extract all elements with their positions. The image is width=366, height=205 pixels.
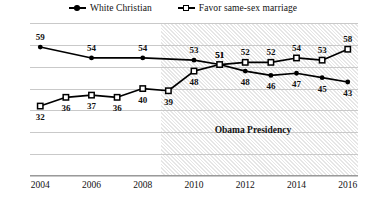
x-axis-tick-label: 2006 bbox=[82, 180, 101, 190]
data-point-label: 37 bbox=[87, 101, 96, 111]
x-axis-tick-label: 2014 bbox=[287, 180, 306, 190]
legend-item-favor-same-sex-marriage: Favor same-sex marriage bbox=[178, 3, 297, 13]
data-point-label: 45 bbox=[318, 84, 327, 94]
data-point-label: 51 bbox=[215, 50, 224, 60]
data-point-label: 48 bbox=[241, 77, 250, 87]
x-axis-tick-label: 2004 bbox=[31, 180, 50, 190]
data-point-label: 58 bbox=[343, 34, 352, 44]
chart-legend: White Christian Favor same-sex marriage bbox=[0, 0, 366, 16]
filled-circle-marker-icon bbox=[69, 4, 86, 13]
data-point-label: 52 bbox=[241, 47, 250, 57]
data-point-label: 32 bbox=[36, 112, 45, 122]
data-point-label: 54 bbox=[87, 43, 96, 53]
data-point-label: 40 bbox=[138, 95, 147, 105]
data-point-label: 54 bbox=[138, 43, 147, 53]
data-point-label: 43 bbox=[343, 88, 352, 98]
legend-label-favor-same-sex-marriage: Favor same-sex marriage bbox=[199, 3, 297, 13]
x-axis-tick-label: 2012 bbox=[236, 180, 255, 190]
data-point-label: 52 bbox=[266, 47, 275, 57]
x-axis-tick-label: 2008 bbox=[133, 180, 152, 190]
x-axis-tick-label: 2016 bbox=[338, 180, 357, 190]
data-point-label: 53 bbox=[318, 45, 327, 55]
data-point-label: 48 bbox=[190, 77, 199, 87]
x-axis-tick-label: 2010 bbox=[185, 180, 204, 190]
data-point-label: 46 bbox=[266, 81, 275, 91]
data-point-label: 54 bbox=[292, 43, 301, 53]
chart-container: White Christian Favor same-sex marriage … bbox=[0, 0, 366, 205]
data-point-label: 39 bbox=[164, 97, 173, 107]
legend-label-white-christian: White Christian bbox=[90, 3, 152, 13]
gridline bbox=[30, 176, 358, 177]
data-point-label: 47 bbox=[292, 79, 301, 89]
annotation-obama-presidency: Obama Presidency bbox=[215, 125, 292, 135]
data-point-label: 59 bbox=[36, 32, 45, 42]
data-point-label: 36 bbox=[61, 103, 70, 113]
hollow-square-marker-icon bbox=[178, 4, 195, 13]
legend-item-white-christian: White Christian bbox=[69, 3, 152, 13]
plot-area: 010203040506070 200420062008201020122014… bbox=[30, 23, 358, 176]
data-point-label: 53 bbox=[190, 45, 199, 55]
data-point-label: 36 bbox=[113, 103, 122, 113]
